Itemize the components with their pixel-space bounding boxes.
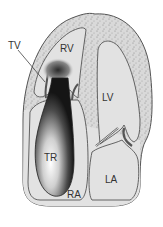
heart-diagram: TV RV LV TR RA LA <box>0 0 163 227</box>
label-lv: LV <box>102 92 114 103</box>
label-la: LA <box>105 174 118 185</box>
label-ra: RA <box>67 189 81 200</box>
label-tv: TV <box>8 40 21 51</box>
la-chamber <box>89 140 139 200</box>
label-tr: TR <box>44 152 57 163</box>
label-rv: RV <box>60 43 74 54</box>
